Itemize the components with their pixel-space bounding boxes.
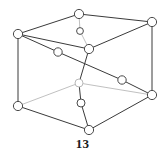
graph-edge: [89, 22, 152, 49]
graph-edge: [79, 14, 152, 22]
figure-caption: 13: [0, 136, 165, 152]
graph-node: [13, 29, 22, 38]
graph-node: [84, 125, 93, 134]
graph-node: [147, 90, 156, 99]
graph-edge: [18, 83, 79, 106]
graph-edge: [18, 14, 79, 34]
figure-container: 13: [0, 0, 165, 162]
graph-node: [118, 76, 126, 84]
graph-edge: [18, 34, 58, 52]
graph-node: [84, 44, 93, 53]
graph-node: [77, 28, 84, 35]
front-edges-group: [18, 14, 152, 130]
graph-edge: [58, 52, 122, 80]
graph-edge: [18, 34, 89, 49]
graph-node: [13, 101, 22, 110]
graph-node: [74, 9, 83, 18]
graph-node: [54, 48, 62, 56]
graph-edge: [89, 95, 152, 130]
graph-node: [147, 17, 156, 26]
graph-edge: [18, 106, 89, 130]
graph-node: [75, 79, 83, 87]
graph-node: [77, 99, 85, 107]
graph-edge: [79, 49, 89, 83]
